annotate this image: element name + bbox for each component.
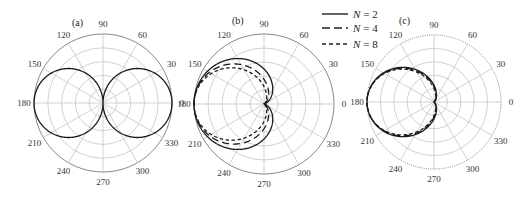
angle-tick-label: 90 [430, 20, 440, 30]
angle-tick-label: 120 [217, 30, 231, 40]
spoke-line [376, 102, 434, 136]
angle-tick-label: 210 [28, 138, 42, 148]
legend-label-n2: N= 2 [352, 8, 378, 20]
polar-grid: 0306090120150180210240270300330 [177, 19, 347, 189]
legend: N= 2 N= 4 N= 8 [322, 8, 378, 50]
panel-label-b: (b) [232, 15, 244, 27]
spoke-line [203, 69, 264, 104]
angle-tick-label: 30 [496, 59, 506, 69]
angle-tick-label: 150 [28, 59, 42, 69]
spoke-line [264, 43, 299, 104]
spoke-line [43, 103, 103, 138]
spoke-line [203, 104, 264, 139]
spoke-line [43, 69, 103, 104]
angle-tick-label: 120 [389, 30, 403, 40]
spoke-line [434, 102, 492, 136]
angle-tick-label: 240 [57, 166, 71, 176]
angle-tick-label: 210 [188, 139, 202, 149]
angle-tick-label: 330 [494, 136, 508, 146]
angle-tick-label: 180 [177, 99, 191, 109]
angle-tick-label: 60 [138, 30, 148, 40]
angle-tick-label: 210 [361, 136, 375, 146]
angle-tick-label: 90 [260, 19, 270, 29]
spoke-line [376, 69, 434, 103]
spoke-line [264, 104, 299, 165]
polar-plot-b: 0306090120150180210240270300330 [177, 19, 347, 189]
angle-tick-label: 120 [57, 30, 71, 40]
angle-tick-label: 0 [509, 97, 514, 107]
angle-tick-label: 270 [257, 179, 271, 189]
angle-tick-label: 180 [17, 98, 31, 108]
angle-tick-label: 150 [361, 59, 375, 69]
angle-tick-label: 330 [327, 139, 341, 149]
angle-tick-label: 300 [297, 168, 311, 178]
spoke-line [434, 102, 468, 160]
angle-tick-label: 30 [329, 59, 339, 69]
spoke-line [434, 44, 468, 102]
angle-tick-label: 240 [217, 168, 231, 178]
angle-tick-label: 150 [188, 59, 202, 69]
angle-tick-label: 300 [466, 164, 480, 174]
angle-tick-label: 330 [165, 138, 179, 148]
polar-figure: 0306090120150180210240270300330 03060901… [0, 0, 528, 197]
angle-tick-label: 60 [468, 30, 478, 40]
polar-grid: 0306090120150180210240270300330 [17, 19, 185, 187]
spoke-line [103, 69, 163, 104]
angle-tick-label: 60 [300, 30, 310, 40]
angle-tick-label: 0 [342, 99, 347, 109]
panel-label-a: (a) [72, 17, 83, 29]
spoke-line [103, 103, 163, 138]
panel-label-c: (c) [399, 15, 410, 27]
legend-label-n8: N= 8 [352, 38, 378, 50]
angle-tick-label: 270 [427, 174, 441, 184]
angle-tick-label: 240 [389, 164, 403, 174]
spoke-line [434, 69, 492, 103]
angle-tick-label: 30 [167, 59, 177, 69]
angle-tick-label: 300 [136, 166, 150, 176]
angle-tick-label: 270 [96, 177, 110, 187]
legend-label-n4: N= 4 [352, 22, 378, 34]
angle-tick-label: 90 [99, 19, 109, 29]
angle-tick-label: 180 [350, 97, 364, 107]
polar-plot-a: 0306090120150180210240270300330 [17, 19, 185, 187]
